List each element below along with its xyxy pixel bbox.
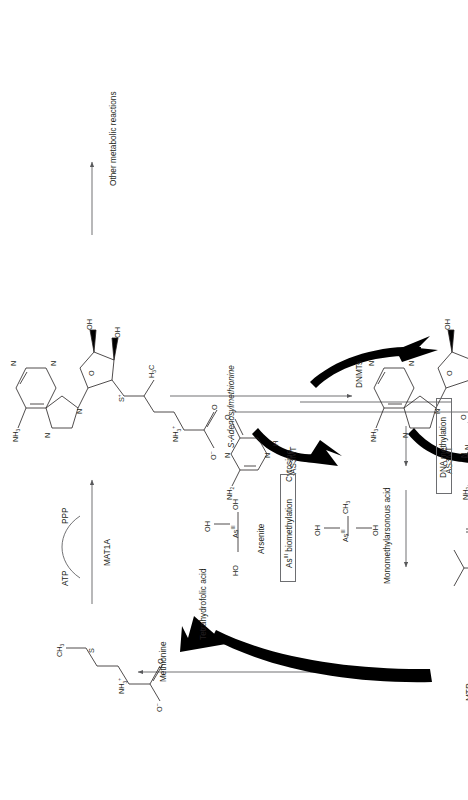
atom-sah-n2: N [408,361,415,366]
atom-sam-n2: N [50,361,57,366]
atom-mma-as: AsIII [342,529,350,542]
figure-canvas: Methionine CH3 S NH3+ O– O ATP PPP MAT1A… [0,0,468,800]
atom-cytosine-h: H [272,441,279,446]
atom-cytosine-o: O [224,414,231,420]
atom-sam-n4: N [76,409,83,414]
methionine-structure [66,648,163,701]
atom-sam-s-plus: S+ [118,394,126,402]
backbone-lines [92,162,468,672]
label-dnmts: DNMTs [356,361,365,388]
atom-methionine-o-minus: O– [156,704,164,712]
atom-mma-oh2: OH [372,525,379,536]
atom-sam-o-ring: O [88,370,95,376]
atom-arsenite-ho: HO [232,565,239,576]
atom-cytosine-n2: N [264,453,271,458]
atom-arsenite-oh1: OH [232,499,239,510]
atom-cytosine-n1: N [224,453,231,458]
atom-5mc-n1: N [460,453,467,458]
n5-methyl-thf-structure [454,332,468,622]
atom-sam-n3: N [44,433,51,438]
label-mma: Monomethylarsonous acid [384,487,393,584]
label-arsenite: Arsenite [258,524,267,554]
label-ppp: PPP [62,507,71,524]
label-atp: ATP [62,571,71,586]
atom-arsenite-as: AsIII [232,525,240,538]
atom-sam-nh3: NH3 [12,429,22,442]
atom-5mc-o: O [460,414,467,420]
atom-sah-oh1: OH [444,319,451,330]
atp-ppp-curve [62,516,80,578]
pathway-figure: Methionine CH3 S NH3+ O– O ATP PPP MAT1A… [0,0,468,800]
atom-sam-oh1: OH [86,319,93,330]
label-other-metabolic-reactions: Other metabolic reactions [110,91,119,186]
atom-mma-oh1: OH [314,525,321,536]
atom-sam-o-minus: O– [210,452,218,460]
atom-sah-o-ring: O [446,370,453,376]
atom-sam-oh2: OH [114,327,121,338]
atom-5mc-nh2: NH2 [462,487,468,500]
sam-structure [16,330,217,448]
atom-sah-n3: N [402,433,409,438]
atom-arsenite-oh2: OH [204,521,211,532]
atom-methionine-o: O [157,658,164,664]
atom-methionine-nh3: NH3+ [118,678,129,694]
label-as-biomethylation: AsIII biomethylation [283,499,294,568]
label-tetrahydrofolic-acid: Tetrahydrofolic acid [200,568,209,640]
label-dna-methylation: DNA methylation [439,417,448,478]
label-sam: S-Adenosylmethionine [228,365,237,448]
atom-mma-ch3: CH3 [342,501,352,514]
atom-sam-h3c: H3C [148,365,158,378]
atom-sah-nh3: NH3 [370,429,380,442]
atom-cytosine-nh2: NH2 [226,487,236,500]
atom-methionine-ch3: CH3 [56,644,66,657]
atom-sam-o: O [211,404,218,410]
atom-sam-nh3-plus: NH3+ [172,426,183,442]
atom-sam-n1: N [10,361,17,366]
atom-sah-n1: N [368,361,375,366]
atom-methionine-s: S [88,648,95,653]
label-mat1a: MAT1A [104,539,113,566]
sah-structure [374,330,468,448]
